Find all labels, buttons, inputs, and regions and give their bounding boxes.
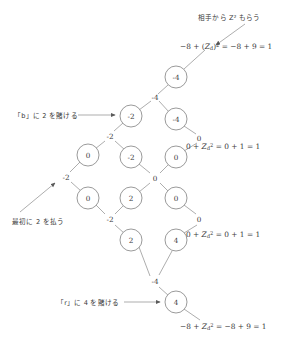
lattice-node[interactable]: 2 (120, 229, 142, 251)
edge (114, 123, 123, 131)
lattice-node[interactable]: 0 (77, 187, 99, 209)
junction-label: -4 (151, 93, 158, 102)
edge (160, 164, 169, 173)
edge (184, 126, 196, 134)
formula-ur-lead: 0 + (186, 142, 202, 151)
formula-bottom: −8 + Zd2 = −8 + 9 = 1 (180, 322, 267, 331)
edge (184, 205, 196, 214)
annotation-pay-first: 最初に 2 を払う (12, 216, 64, 226)
edge (159, 101, 169, 112)
formula-bot-lead: −8 + (180, 322, 202, 331)
formula-top: −8 + (Zd)2 = −8 + 9 = 1 (180, 42, 272, 51)
node-label: 4 (174, 298, 179, 307)
edge (115, 225, 124, 233)
node-label: 0 (174, 153, 179, 162)
formula-lr-lead: 0 + (186, 230, 202, 239)
junction-label: -2 (62, 173, 69, 182)
lattice-edges (70, 50, 205, 320)
formula-top-tail: = −8 + 9 = 1 (219, 42, 272, 51)
lattice-node[interactable]: -2 (120, 105, 142, 127)
node-label: -4 (172, 115, 179, 124)
leader-pay-first-note (20, 183, 55, 212)
node-label: -2 (127, 112, 134, 121)
annotation-bet-r: 「r」に 4 を賭ける (57, 297, 119, 307)
lattice-node[interactable]: -4 (165, 108, 187, 130)
lattice-node[interactable]: 0 (77, 144, 99, 166)
edge (115, 205, 124, 214)
junction-label: -4 (151, 277, 158, 286)
annotation-bet-b: 「b」に 2 を賭ける (14, 110, 78, 120)
node-label: 2 (129, 236, 134, 245)
lattice-node[interactable]: 4 (165, 291, 187, 313)
lattice-node[interactable]: 2 (120, 187, 142, 209)
node-label: 0 (86, 194, 91, 203)
node-label: 4 (174, 236, 179, 245)
formula-lower-right: 0 + Zd2 = 0 + 1 = 1 (186, 230, 260, 239)
formula-top-lead: −8 + ( (180, 42, 205, 51)
lattice-node[interactable]: -2 (120, 146, 142, 168)
node-label: -2 (127, 153, 134, 162)
edge (139, 101, 151, 110)
formula-bot-tail: = −8 + 9 = 1 (214, 322, 267, 331)
edge (139, 247, 150, 276)
formula-lr-tail: = 0 + 1 = 1 (213, 230, 260, 239)
node-label: 2 (129, 194, 134, 203)
formula-upper-right: 0 + Zd2 = 0 + 1 = 1 (186, 142, 260, 151)
annotation-top-right: 相手から Z² もらう (198, 12, 261, 22)
lattice-node[interactable]: 0 (165, 146, 187, 168)
edge (96, 205, 105, 214)
lattice-node[interactable]: 0 (165, 187, 187, 209)
lattice-graph: -4 -2 0 -2 0 -2 0 -4 -4 -2 -4 (0, 0, 293, 344)
node-label: -4 (172, 73, 179, 82)
edge-top-tail (184, 50, 205, 69)
edge (71, 182, 81, 191)
lattice-node[interactable]: 4 (165, 229, 187, 251)
edge (159, 251, 172, 275)
junction-label: 0 (153, 174, 158, 183)
junction-label: 0 (197, 215, 202, 224)
junction-label: -2 (106, 215, 113, 224)
edge-bottom-tail (184, 309, 200, 320)
node-label: 0 (86, 151, 91, 160)
diagram-canvas: -4 -2 0 -2 0 -2 0 -4 -4 -2 -4 (0, 0, 293, 344)
edge (139, 183, 150, 192)
junction-label: -2 (106, 132, 113, 141)
edge (70, 162, 80, 172)
node-label: 0 (174, 194, 179, 203)
edge (158, 85, 168, 94)
lattice-nodes: -4 -2 -4 0 -2 0 (77, 66, 187, 313)
lattice-node[interactable]: -4 (165, 66, 187, 88)
formula-ur-tail: = 0 + 1 = 1 (213, 142, 260, 151)
edge (139, 164, 150, 173)
